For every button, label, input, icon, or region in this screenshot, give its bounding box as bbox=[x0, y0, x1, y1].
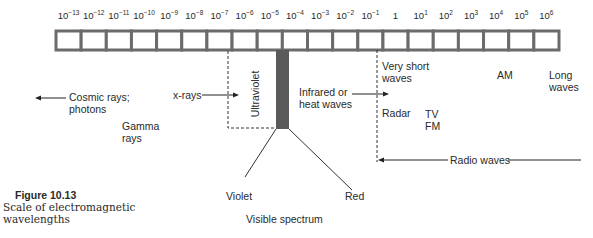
tick-exponent: −4 bbox=[296, 9, 303, 16]
arrowhead-left-icon bbox=[378, 158, 384, 163]
scale-cell bbox=[232, 31, 257, 50]
scale-tick-label: 10−2 bbox=[333, 9, 358, 21]
scale-tick-label: 10−13 bbox=[56, 9, 81, 21]
tick-exponent: −12 bbox=[93, 9, 104, 16]
scale-cell bbox=[207, 31, 232, 50]
tick-base: 10 bbox=[211, 10, 222, 21]
scale-cell bbox=[408, 31, 433, 50]
scale-cell bbox=[484, 31, 509, 50]
red-pointer-line bbox=[289, 129, 352, 190]
scale-tick-label: 10−3 bbox=[308, 9, 333, 21]
scale-tick-label: 10−9 bbox=[157, 9, 182, 21]
scale-bar bbox=[56, 31, 559, 50]
tv-label: TV bbox=[425, 108, 440, 120]
tick-base: 10 bbox=[133, 10, 144, 21]
scale-tick-label: 10−6 bbox=[232, 9, 257, 21]
tick-base: 1 bbox=[393, 10, 398, 21]
tick-exponent: 3 bbox=[474, 9, 478, 16]
tick-base: 10 bbox=[236, 10, 247, 21]
gamma-rays-line2: rays bbox=[122, 132, 159, 144]
tick-base: 10 bbox=[539, 10, 550, 21]
violet-pointer-line bbox=[245, 129, 276, 177]
figure-number: Figure 10.13 bbox=[3, 189, 135, 201]
tick-exponent: 1 bbox=[424, 9, 428, 16]
infrared-label: Infrared or heat waves bbox=[299, 86, 352, 110]
tick-exponent: 2 bbox=[449, 9, 453, 16]
visible-spectrum-label: Visible spectrum bbox=[246, 213, 323, 225]
tick-exponent: −9 bbox=[171, 9, 178, 16]
scale-tick-label: 101 bbox=[408, 9, 433, 21]
scale-cell bbox=[257, 31, 282, 50]
radar-label: Radar bbox=[382, 107, 411, 119]
tick-exponent: 4 bbox=[500, 9, 504, 16]
scale-tick-label: 102 bbox=[433, 9, 458, 21]
scale-tick-label: 103 bbox=[459, 9, 484, 21]
scale-tick-label: 10−5 bbox=[257, 9, 282, 21]
tick-base: 10 bbox=[160, 10, 171, 21]
tick-base: 10 bbox=[514, 10, 525, 21]
arrowhead-right-icon bbox=[383, 92, 389, 97]
long-waves-line2: waves bbox=[549, 81, 579, 93]
tick-base: 10 bbox=[311, 10, 322, 21]
tick-exponent: −6 bbox=[246, 9, 253, 16]
scale-tick-label: 106 bbox=[534, 9, 559, 21]
tick-base: 10 bbox=[261, 10, 272, 21]
infrared-line2: heat waves bbox=[299, 98, 352, 110]
scale-tick-label: 10−12 bbox=[81, 9, 106, 21]
scale-cell bbox=[358, 31, 383, 50]
tick-base: 10 bbox=[185, 10, 196, 21]
violet-label: Violet bbox=[226, 190, 252, 202]
scale-cell bbox=[56, 31, 81, 50]
scale-tick-label: 104 bbox=[484, 9, 509, 21]
scale-cell bbox=[157, 31, 182, 50]
ultraviolet-label: Ultraviolet bbox=[249, 64, 261, 124]
radio-waves-label: Radio waves bbox=[450, 154, 510, 166]
long-waves-label: Long waves bbox=[549, 69, 579, 93]
scale-cell bbox=[131, 31, 156, 50]
scale-tick-label: 10−10 bbox=[132, 9, 157, 21]
figure-caption: Figure 10.13 Scale of electromagnetic wa… bbox=[3, 189, 135, 225]
am-label: AM bbox=[497, 69, 513, 81]
tick-base: 10 bbox=[286, 10, 297, 21]
scale-cell bbox=[182, 31, 207, 50]
scale-cell bbox=[383, 31, 408, 50]
tick-exponent: 6 bbox=[550, 9, 554, 16]
tick-base: 10 bbox=[361, 10, 372, 21]
caption-line2: wavelengths bbox=[3, 213, 135, 225]
tick-exponent: −2 bbox=[347, 9, 354, 16]
scale-tick-label: 10−11 bbox=[106, 9, 131, 21]
tick-base: 10 bbox=[489, 10, 500, 21]
tick-base: 10 bbox=[464, 10, 475, 21]
tick-exponent: −13 bbox=[68, 9, 79, 16]
visible-spectrum-band bbox=[276, 50, 289, 129]
scale-cell bbox=[81, 31, 106, 50]
tick-exponent: −7 bbox=[221, 9, 228, 16]
scale-tick-label: 1 bbox=[383, 9, 408, 21]
tick-exponent: −1 bbox=[372, 9, 379, 16]
very-short-waves-label: Very short waves bbox=[382, 60, 429, 84]
tick-base: 10 bbox=[439, 10, 450, 21]
tick-exponent: −5 bbox=[271, 9, 278, 16]
scale-cell bbox=[308, 31, 333, 50]
scale-tick-label: 10−1 bbox=[358, 9, 383, 21]
cosmic-rays-label: Cosmic rays; photons bbox=[69, 91, 130, 115]
infrared-line1: Infrared or bbox=[299, 86, 352, 98]
tick-exponent: −10 bbox=[144, 9, 155, 16]
scale-tick-label: 105 bbox=[509, 9, 534, 21]
tick-base: 10 bbox=[58, 10, 69, 21]
tick-exponent: −8 bbox=[196, 9, 203, 16]
tv-fm-label: TV FM bbox=[425, 108, 440, 132]
tick-base: 10 bbox=[414, 10, 425, 21]
tick-exponent: −11 bbox=[119, 9, 130, 16]
tick-base: 10 bbox=[83, 10, 94, 21]
fm-label: FM bbox=[425, 120, 440, 132]
scale-cell bbox=[282, 31, 307, 50]
scale-cell bbox=[534, 31, 559, 50]
tick-base: 10 bbox=[336, 10, 347, 21]
scale-cell bbox=[458, 31, 483, 50]
scale-cell bbox=[433, 31, 458, 50]
caption-line1: Scale of electromagnetic bbox=[3, 201, 135, 213]
tick-exponent: 5 bbox=[525, 9, 529, 16]
gamma-rays-line1: Gamma bbox=[122, 120, 159, 132]
red-label: Red bbox=[345, 190, 364, 202]
